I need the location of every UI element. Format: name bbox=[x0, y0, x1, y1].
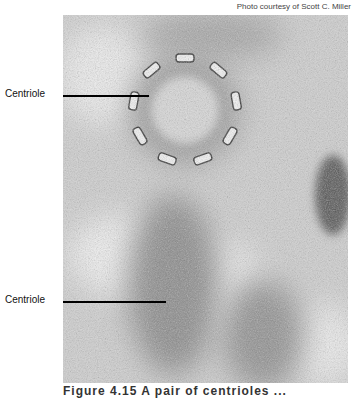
micrograph-image bbox=[63, 15, 348, 383]
photo-credit: Photo courtesy of Scott C. Miller bbox=[237, 2, 351, 11]
leader-line-lower bbox=[63, 301, 166, 303]
centriole-label-lower: Centriole bbox=[5, 294, 45, 305]
leader-line-upper bbox=[63, 95, 149, 97]
micrograph bbox=[63, 15, 348, 383]
figure-caption: Figure 4.15 A pair of centrioles ... bbox=[63, 384, 287, 398]
centriole-label-upper: Centriole bbox=[5, 88, 45, 99]
